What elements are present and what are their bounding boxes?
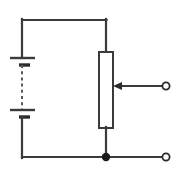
common-output-terminal (162, 153, 169, 160)
circuit-schematic-canvas (0, 0, 181, 175)
battery-symbol (10, 19, 35, 158)
wiper-output-terminal (162, 82, 169, 89)
potentiometer-symbol (99, 19, 163, 158)
circuit-diagram (0, 0, 181, 175)
wiper-arrow-head-icon (113, 82, 122, 90)
junction-node (102, 153, 110, 161)
terminal-group (162, 82, 169, 160)
wire-group (22, 20, 164, 157)
wiper-arrow (113, 82, 163, 90)
potentiometer-body (99, 52, 113, 128)
